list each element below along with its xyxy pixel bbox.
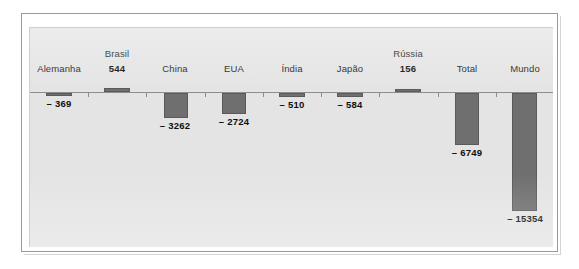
- category-label-brasil: Brasil: [88, 48, 146, 59]
- category-label-japao: Japão: [321, 63, 379, 74]
- axis-tick: [321, 92, 322, 97]
- bar-eua: [222, 93, 246, 114]
- value-label-russia: 156: [379, 63, 437, 74]
- value-label-eua: – 2724: [205, 116, 263, 127]
- axis-tick: [496, 92, 497, 97]
- bar-china: [164, 93, 188, 118]
- value-label-china: – 3262: [146, 120, 204, 131]
- category-label-china: China: [146, 63, 204, 74]
- bar-mundo: [512, 93, 537, 211]
- category-label-total: Total: [438, 63, 496, 74]
- axis-tick: [379, 92, 380, 97]
- axis-tick: [263, 92, 264, 97]
- axis-tick: [146, 92, 147, 97]
- value-label-alemanha: – 369: [30, 98, 88, 109]
- plot-area: Alemanha– 369Brasil544China– 3262EUA– 27…: [29, 27, 553, 247]
- category-label-eua: EUA: [205, 63, 263, 74]
- category-label-alemanha: Alemanha: [30, 63, 88, 74]
- bar-alemanha: [46, 93, 72, 96]
- bar-india: [279, 93, 305, 97]
- value-label-mundo: – 15354: [496, 213, 553, 224]
- axis-tick: [438, 92, 439, 97]
- axis-tick: [88, 92, 89, 97]
- axis-tick: [205, 92, 206, 97]
- value-label-india: – 510: [263, 99, 321, 110]
- category-label-russia: Rússia: [379, 48, 437, 59]
- bar-russia: [395, 89, 421, 92]
- bar-total: [455, 93, 479, 145]
- value-label-brasil: 544: [88, 63, 146, 74]
- category-label-india: Índia: [263, 63, 321, 74]
- bar-brasil: [104, 88, 130, 92]
- value-label-japao: – 584: [321, 99, 379, 110]
- chart-figure: Alemanha– 369Brasil544China– 3262EUA– 27…: [0, 0, 579, 269]
- category-label-mundo: Mundo: [496, 63, 553, 74]
- bar-japao: [337, 93, 363, 97]
- value-label-total: – 6749: [438, 147, 496, 158]
